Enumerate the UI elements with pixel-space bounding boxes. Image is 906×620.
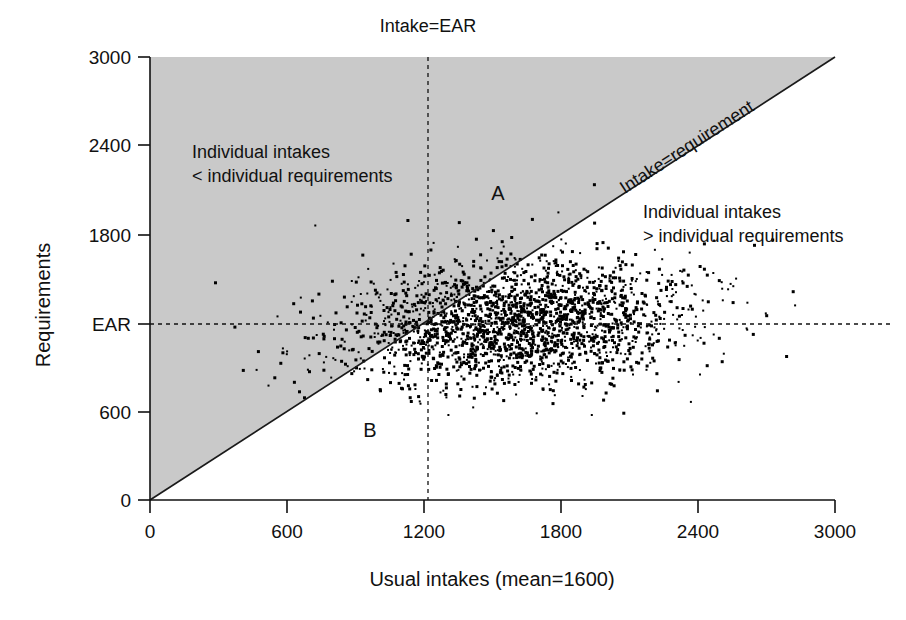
x-axis-ticks [150,500,835,513]
plot-canvas: 3000 2400 1800 EAR 600 0 0 600 1200 1800… [0,0,906,620]
y-tick-label-3000: 3000 [89,47,131,68]
x-tick-label-3000: 3000 [814,521,856,542]
x-tick-label-1800: 1800 [540,521,582,542]
y-tick-label-2400: 2400 [89,135,131,156]
x-tick-label-600: 600 [271,521,303,542]
annotation-intakes-above-requirements-line2: > individual requirements [643,226,844,246]
scatter-plot-figure: 3000 2400 1800 EAR 600 0 0 600 1200 1800… [0,0,906,620]
annotation-intakes-below-requirements-line1: Individual intakes [192,142,330,162]
y-axis-title: Requirements [32,243,54,368]
annotation-intake-equals-ear: Intake=EAR [380,16,477,36]
x-tick-label-2400: 2400 [677,521,719,542]
x-axis-title: Usual intakes (mean=1600) [369,568,614,590]
region-label-a: A [491,182,505,204]
x-tick-label-0: 0 [145,521,156,542]
y-tick-label-ear: EAR [92,314,131,335]
y-tick-label-1800: 1800 [89,225,131,246]
x-tick-label-1200: 1200 [403,521,445,542]
annotation-intakes-above-requirements-line1: Individual intakes [643,202,781,222]
y-tick-label-600: 600 [99,402,131,423]
region-label-b: B [363,419,376,441]
annotation-intakes-below-requirements-line2: < individual requirements [192,166,393,186]
y-axis-ticks [138,57,150,500]
y-tick-label-0: 0 [120,490,131,511]
